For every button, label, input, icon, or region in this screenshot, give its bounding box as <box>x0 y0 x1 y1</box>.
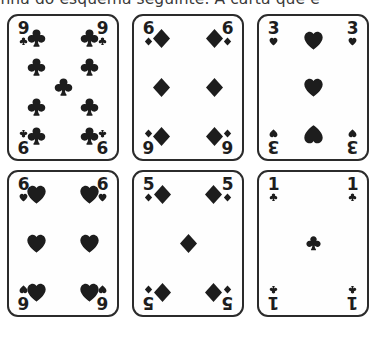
club-pip-icon <box>26 97 47 118</box>
heart-suit-icon <box>269 129 278 138</box>
diamond-pip-icon <box>152 184 173 205</box>
card-rank-label: 1 <box>347 176 358 193</box>
playing-card-6-hearts[interactable]: 6666 <box>7 170 119 317</box>
card-rank-label: 3 <box>347 20 358 37</box>
club-pip-icon <box>53 77 74 98</box>
card-pip-field <box>28 185 98 302</box>
heart-pip-icon <box>26 233 47 254</box>
playing-card-5-diamonds[interactable]: 5555 <box>132 170 244 317</box>
heart-suit-icon <box>348 37 357 46</box>
card-pip-field <box>278 29 348 146</box>
club-pip-icon <box>79 28 100 49</box>
heart-pip-icon <box>303 124 324 145</box>
card-rank-label: 3 <box>347 138 358 155</box>
cards-grid: 999966663333666655551111 <box>0 14 384 317</box>
diamond-suit-icon <box>223 193 232 202</box>
club-pip-icon <box>26 28 47 49</box>
card-pip-field <box>278 185 348 302</box>
club-pip-icon <box>305 235 322 252</box>
heart-pip-icon <box>79 184 100 205</box>
heart-pip-icon <box>303 77 324 98</box>
heart-pip-icon <box>79 233 100 254</box>
card-rank-label: 1 <box>347 294 358 311</box>
diamond-pip-icon <box>203 184 224 205</box>
diamond-pip-icon <box>203 282 224 303</box>
card-row: 666655551111 <box>0 170 384 317</box>
heart-pip-icon <box>303 30 324 51</box>
playing-card-3-hearts[interactable]: 3333 <box>257 14 369 161</box>
diamond-pip-icon <box>204 126 225 147</box>
diamond-pip-icon <box>152 282 173 303</box>
card-row: 999966663333 <box>0 14 384 161</box>
heart-pip-icon <box>26 282 47 303</box>
club-pip-icon <box>79 97 100 118</box>
caption-strip: inha do esquema seguinte. A carta que e <box>0 0 384 11</box>
card-pip-field <box>28 29 98 146</box>
diamond-suit-icon <box>223 285 232 294</box>
diamond-pip-icon <box>151 77 172 98</box>
club-pip-icon <box>79 126 100 147</box>
caption-text: inha do esquema seguinte. A carta que e <box>0 0 320 8</box>
diamond-pip-icon <box>178 233 199 254</box>
heart-pip-icon <box>26 184 47 205</box>
card-pip-field <box>153 185 223 302</box>
diamond-pip-icon <box>151 126 172 147</box>
heart-pip-icon <box>79 282 100 303</box>
club-suit-icon <box>348 285 357 294</box>
diamond-pip-icon <box>151 28 172 49</box>
club-pip-icon <box>79 57 100 78</box>
diamond-pip-icon <box>204 28 225 49</box>
club-pip-icon <box>26 126 47 147</box>
playing-card-1-clubs[interactable]: 1111 <box>257 170 369 317</box>
club-suit-icon <box>269 193 278 202</box>
playing-card-9-clubs[interactable]: 9999 <box>7 14 119 161</box>
diamond-pip-icon <box>204 77 225 98</box>
club-pip-icon <box>26 57 47 78</box>
heart-suit-icon <box>269 37 278 46</box>
club-suit-icon <box>348 193 357 202</box>
card-pip-field <box>153 29 223 146</box>
playing-card-6-diamonds[interactable]: 6666 <box>132 14 244 161</box>
club-suit-icon <box>269 285 278 294</box>
heart-suit-icon <box>348 129 357 138</box>
